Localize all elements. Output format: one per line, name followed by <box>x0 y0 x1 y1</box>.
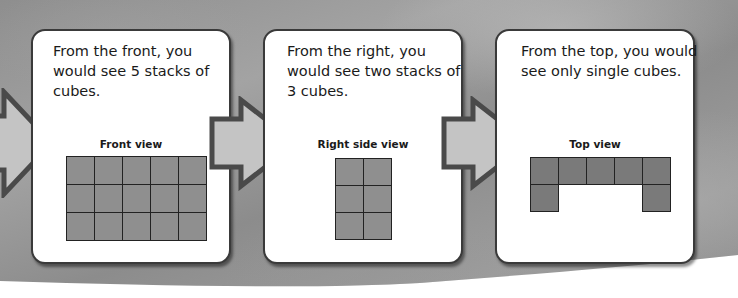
top-view-description: From the top, you would see only single … <box>521 41 699 81</box>
cube <box>614 157 643 185</box>
cube <box>363 158 392 186</box>
right-side-view-description: From the right, you would see two stacks… <box>287 41 465 101</box>
front-view-label: Front view <box>33 138 229 150</box>
front-view-grid <box>66 156 206 240</box>
cube <box>178 156 207 185</box>
cube <box>363 185 392 213</box>
cube <box>642 157 671 185</box>
cube <box>530 157 559 185</box>
front-view-panel: From the front, you would see 5 stacks o… <box>31 29 231 264</box>
empty-cell <box>586 184 615 212</box>
cube <box>94 156 123 185</box>
cube <box>150 156 179 185</box>
cube <box>66 156 95 185</box>
right-side-view-label: Right side view <box>265 138 461 150</box>
cube <box>558 157 587 185</box>
cube <box>150 212 179 241</box>
cube <box>122 184 151 213</box>
right-side-view-panel: From the right, you would see two stacks… <box>263 29 463 264</box>
cube <box>335 158 364 186</box>
cube <box>94 184 123 213</box>
cube <box>642 184 671 212</box>
cube <box>335 212 364 240</box>
cube <box>150 184 179 213</box>
cube <box>66 212 95 241</box>
cube <box>586 157 615 185</box>
cube <box>335 185 364 213</box>
empty-cell <box>558 184 587 212</box>
cube <box>122 212 151 241</box>
cube <box>94 212 123 241</box>
top-view-panel: From the top, you would see only single … <box>495 29 695 264</box>
cube <box>66 184 95 213</box>
cube <box>530 184 559 212</box>
cube <box>178 184 207 213</box>
cube <box>363 212 392 240</box>
empty-cell <box>614 184 643 212</box>
cube <box>122 156 151 185</box>
front-view-description: From the front, you would see 5 stacks o… <box>53 41 231 101</box>
top-view-grid <box>530 157 670 211</box>
right-side-view-grid <box>335 158 391 239</box>
cube <box>178 212 207 241</box>
top-view-label: Top view <box>497 138 693 150</box>
